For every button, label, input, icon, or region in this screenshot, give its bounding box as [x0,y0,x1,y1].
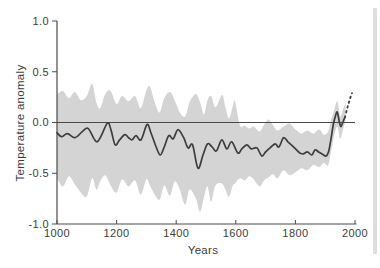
uncertainty-band-layer [57,84,346,212]
x-axis-title: Years [188,244,219,256]
x-tick-label-1800: 1800 [282,227,308,239]
x-tick-label-1600: 1600 [223,227,249,239]
scan-edge-artifact [373,8,377,254]
x-tick-label-1000: 1000 [44,227,70,239]
y-axis-title: Temperature anomaly [14,65,26,182]
uncertainty-band [57,84,346,212]
y-tick-label-0.5: 0.5 [33,66,50,78]
temperature-anomaly-chart: 1.00.50.0-0.5-1.010001200140016001800200… [0,0,380,268]
y-tick-label-0.0: 0.0 [33,116,50,128]
y-tick-label-1.0: 1.0 [33,15,50,27]
x-tick-label-1200: 1200 [104,227,130,239]
x-tick-label-1400: 1400 [163,227,189,239]
instrumental-dashed-line [345,93,352,117]
y-tick-label--0.5: -0.5 [28,167,49,179]
x-tick-label-2000: 2000 [342,227,368,239]
chart-canvas: 1.00.50.0-0.5-1.010001200140016001800200… [0,0,380,268]
